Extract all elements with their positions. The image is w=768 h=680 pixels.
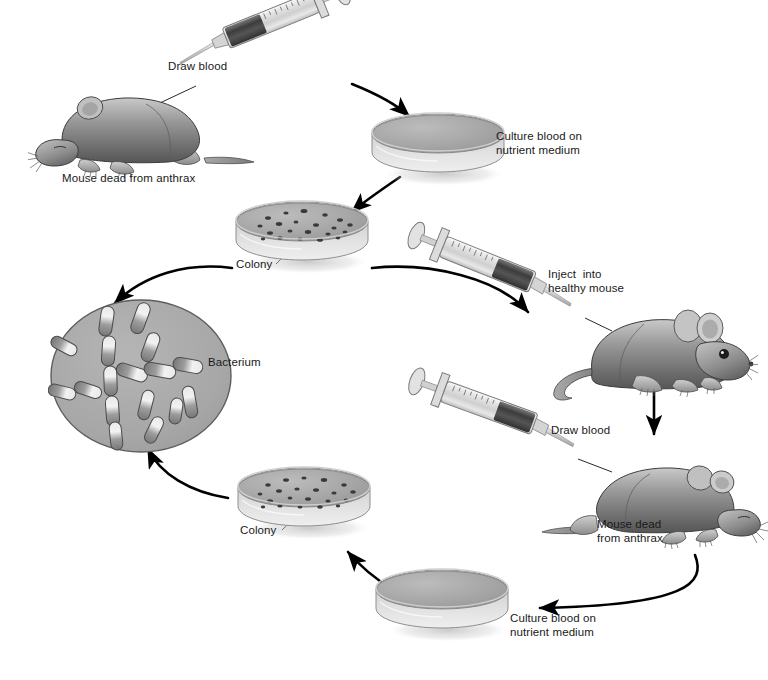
dish-medium	[372, 115, 504, 153]
label-draw-blood-top: Draw blood	[168, 60, 227, 74]
mouse-healthy	[548, 300, 758, 406]
dish-medium	[376, 571, 508, 609]
mouse-front-paw-2	[662, 531, 686, 544]
petri-dish-culture-bottom	[370, 568, 518, 642]
mouse-eye-glint	[721, 351, 724, 354]
mouse-front-paw	[696, 529, 718, 542]
mouse-eye	[719, 349, 729, 359]
mouse-head	[36, 140, 79, 166]
micrograph-bacterium	[48, 298, 234, 454]
syringe-thumb-rest	[330, 0, 353, 7]
label-culture-top-line1: Culture blood on	[496, 130, 582, 144]
syringe-rod	[420, 235, 437, 247]
dish-medium	[236, 203, 368, 241]
label-inject-line2: healthy mouse	[548, 282, 624, 296]
arrow-colonybottom-to-micrograph	[148, 449, 228, 498]
mouse-head	[718, 510, 761, 536]
syringe-rod	[322, 0, 339, 2]
petri-dish-culture-top	[366, 112, 514, 186]
label-culture-top-line2: nutrient medium	[496, 144, 580, 158]
syringe-draw-blood-top	[162, 0, 364, 97]
label-mouse-dead-bottom-line1: Mouse dead	[597, 518, 661, 532]
mouse-tail	[204, 157, 254, 163]
label-draw-blood-bottom: Draw blood	[551, 424, 610, 438]
mouse-hind-leg	[570, 516, 598, 535]
label-inject-line1: Inject into	[548, 268, 602, 282]
mouse-nose	[749, 362, 754, 367]
mouse-front-paw	[78, 159, 100, 172]
mouse-ear-inner	[702, 320, 718, 339]
label-mouse-dead-bottom-line2: from anthrax	[597, 532, 663, 546]
label-colony-bottom: Colony	[240, 524, 276, 538]
arrow-deadbottom-to-culture	[540, 555, 698, 608]
label-mouse-dead-top: Mouse dead from anthrax	[62, 172, 195, 186]
syringe-rod	[420, 380, 437, 391]
dish-medium	[238, 469, 370, 507]
label-bacterium: Bacterium	[208, 356, 261, 370]
label-culture-bottom-line2: nutrient medium	[510, 626, 594, 640]
label-culture-bottom-line1: Culture blood on	[510, 612, 596, 626]
label-colony-top: Colony	[236, 258, 272, 272]
